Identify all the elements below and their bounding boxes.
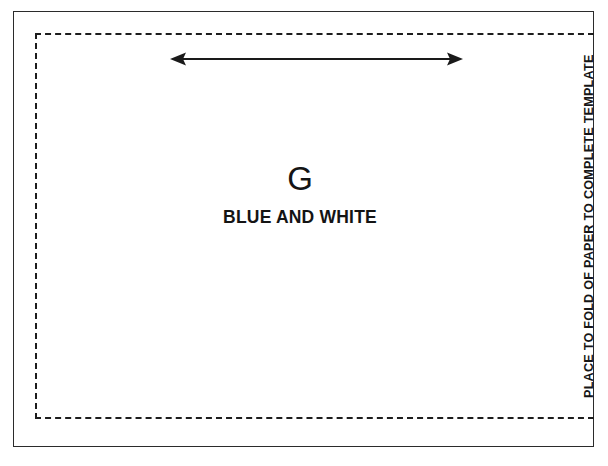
grainline-double-arrow: [166, 48, 467, 70]
piece-code-letter: G: [35, 160, 565, 198]
fabric-color-label: BLUE AND WHITE: [35, 207, 565, 228]
template-center-label: G BLUE AND WHITE: [35, 160, 565, 228]
template-page: G BLUE AND WHITE PLACE TO FOLD OF PAPER …: [0, 0, 608, 466]
